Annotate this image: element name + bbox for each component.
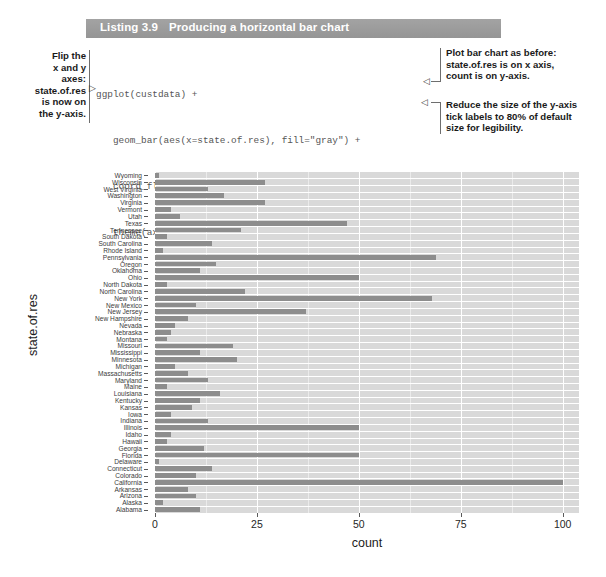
bar	[155, 241, 212, 246]
bar	[155, 282, 167, 287]
row-separator	[155, 335, 579, 336]
annotation-right-top-line-2: state.of.res is on x axis,	[446, 59, 602, 71]
row-separator	[155, 383, 579, 384]
row-separator	[155, 260, 579, 261]
y-tick-mark	[144, 182, 148, 183]
row-separator	[155, 376, 579, 377]
y-tick-mark	[144, 237, 148, 238]
annotation-right-top-line-1: Plot bar chart as before:	[446, 47, 602, 59]
y-tick-mark	[144, 428, 148, 429]
row-separator	[155, 206, 579, 207]
x-tick-mark	[257, 513, 258, 517]
y-tick-mark	[144, 435, 148, 436]
bar	[155, 466, 212, 471]
code-line-2: geom_bar(aes(x=state.of.res), fill="gray…	[96, 133, 372, 148]
row-separator	[155, 281, 579, 282]
y-tick-mark	[144, 312, 148, 313]
y-tick-mark	[144, 469, 148, 470]
x-tick-mark	[461, 513, 462, 517]
y-tick-mark	[144, 482, 148, 483]
y-tick-mark	[144, 196, 148, 197]
y-tick-mark	[144, 373, 148, 374]
bar	[155, 378, 208, 383]
row-separator	[155, 410, 579, 411]
x-tick-mark	[359, 513, 360, 517]
bar	[155, 432, 171, 437]
y-tick-mark	[144, 366, 148, 367]
bar	[155, 364, 175, 369]
y-tick-mark	[144, 291, 148, 292]
bar	[155, 248, 163, 253]
row-separator	[155, 322, 579, 323]
y-tick-mark	[144, 250, 148, 251]
y-tick-mark	[144, 278, 148, 279]
row-separator	[155, 506, 579, 507]
row-separator	[155, 431, 579, 432]
annotation-left-line-6: the y-axis.	[8, 108, 86, 120]
row-separator	[155, 485, 579, 486]
bar	[155, 316, 188, 321]
row-separator	[155, 438, 579, 439]
y-tick-mark	[144, 326, 148, 327]
bar	[155, 350, 200, 355]
bar	[155, 268, 200, 273]
plot-panel	[155, 172, 579, 513]
bar	[155, 309, 306, 314]
y-tick-mark	[144, 455, 148, 456]
y-tick-mark	[144, 448, 148, 449]
annotation-right-bottom: Reduce the size of the y-axis tick label…	[446, 99, 604, 134]
listing-header-text: Listing 3.9Producing a horizontal bar ch…	[100, 21, 349, 33]
bar	[155, 507, 200, 512]
y-tick-mark	[144, 223, 148, 224]
row-separator	[155, 403, 579, 404]
row-separator	[155, 301, 579, 302]
y-tick-mark	[144, 489, 148, 490]
bar-chart: state.of.res WyomingWisconsinWest Virgin…	[0, 160, 606, 577]
y-tick-mark	[144, 407, 148, 408]
bar	[155, 337, 167, 342]
x-axis-title: count	[155, 536, 579, 550]
row-separator	[155, 458, 579, 459]
row-separator	[155, 492, 579, 493]
bar	[155, 275, 359, 280]
annotation-right-top-line-3: count is on y-axis.	[446, 70, 602, 82]
row-separator	[155, 369, 579, 370]
bar	[155, 494, 196, 499]
bar	[155, 296, 432, 301]
bar	[155, 480, 563, 485]
y-tick-mark	[144, 332, 148, 333]
annotation-left-line-3: axes:	[8, 73, 86, 85]
bar	[155, 330, 171, 335]
y-tick-mark	[144, 394, 148, 395]
y-tick-mark	[144, 353, 148, 354]
bar	[155, 391, 220, 396]
annotation-right-top-leader	[431, 81, 441, 82]
y-tick-mark	[144, 441, 148, 442]
y-tick-mark	[144, 510, 148, 511]
y-tick-mark	[144, 271, 148, 272]
row-separator	[155, 472, 579, 473]
bar	[155, 214, 180, 219]
bar	[155, 200, 265, 205]
bar	[155, 405, 192, 410]
row-separator	[155, 349, 579, 350]
bar	[155, 173, 159, 178]
row-separator	[155, 417, 579, 418]
annotation-right-bottom-rule	[440, 102, 441, 134]
listing-number: Listing 3.9	[100, 21, 158, 33]
annotation-right-bottom-line-2: tick labels to 80% of default	[446, 111, 604, 123]
y-tick-mark	[144, 401, 148, 402]
y-tick-mark	[144, 175, 148, 176]
row-separator	[155, 397, 579, 398]
bar	[155, 459, 159, 464]
y-tick-mark	[144, 387, 148, 388]
annotation-left-line-4: state.of.res	[8, 85, 86, 97]
row-separator	[155, 185, 579, 186]
x-tick-label: 0	[152, 518, 158, 530]
y-tick-mark	[144, 285, 148, 286]
y-tick-mark	[144, 476, 148, 477]
row-separator	[155, 363, 579, 364]
bar	[155, 323, 175, 328]
bar	[155, 180, 265, 185]
row-separator	[155, 233, 579, 234]
